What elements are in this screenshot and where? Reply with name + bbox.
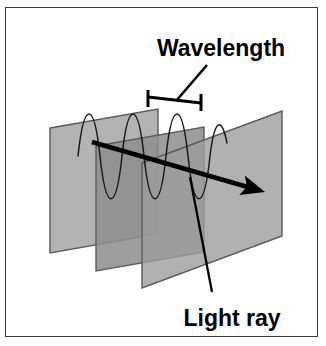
- wave-plane-group: [50, 109, 282, 288]
- light-ray-label: Light ray: [183, 305, 280, 331]
- diagram-canvas: Wavelength Light ray: [0, 0, 326, 346]
- wavelength-bracket: [148, 90, 201, 111]
- light-wave-diagram: Wavelength Light ray: [0, 0, 326, 346]
- bracket-span-bar: [148, 97, 201, 103]
- wavelength-label: Wavelength: [157, 35, 285, 61]
